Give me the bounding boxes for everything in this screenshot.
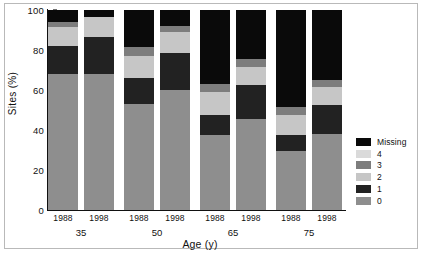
bar-segment[interactable] [160, 90, 190, 210]
bar-segment[interactable] [276, 151, 306, 210]
x-group-label-age: 75 [279, 227, 339, 238]
legend: Missing43210 [356, 136, 418, 207]
bar-segment[interactable] [48, 74, 78, 210]
x-group-label-age: 50 [127, 227, 187, 238]
legend-swatch [356, 150, 371, 158]
y-axis-title: Sites (%) [7, 49, 18, 139]
bar-segment[interactable] [160, 53, 190, 90]
legend-item[interactable]: 4 [356, 148, 418, 160]
y-tick-label: 80 [33, 45, 44, 56]
x-tick-label-year: 1988 [43, 213, 83, 223]
bar-segment[interactable] [160, 10, 190, 26]
legend-item[interactable]: 1 [356, 183, 418, 195]
chart-figure: 020406080100 Sites (%) 19881998351988199… [0, 0, 423, 254]
plot-area [48, 10, 346, 210]
y-tick-label: 40 [33, 125, 44, 136]
stacked-bar[interactable] [236, 10, 266, 210]
bar-segment[interactable] [84, 10, 114, 17]
legend-swatch [356, 197, 371, 205]
y-tick-label: 20 [33, 165, 44, 176]
bar-group [48, 10, 114, 210]
stacked-bar[interactable] [84, 10, 114, 210]
bar-segment[interactable] [312, 80, 342, 87]
stacked-bar[interactable] [312, 10, 342, 210]
bar-segment[interactable] [236, 67, 266, 85]
bar-segment[interactable] [200, 135, 230, 210]
bar-segment[interactable] [48, 46, 78, 74]
bar-segment[interactable] [236, 59, 266, 67]
bar-segment[interactable] [160, 32, 190, 53]
x-tick-label-year: 1998 [307, 213, 347, 223]
x-tick-label-year: 1998 [79, 213, 119, 223]
stacked-bar[interactable] [124, 10, 154, 210]
legend-item[interactable]: 2 [356, 171, 418, 183]
bar-segment[interactable] [124, 78, 154, 104]
bar-segment[interactable] [160, 26, 190, 32]
stacked-bar[interactable] [48, 10, 78, 210]
bar-segment[interactable] [200, 84, 230, 92]
legend-item[interactable]: 3 [356, 160, 418, 172]
bar-segment[interactable] [312, 105, 342, 134]
x-tick-label-year: 1998 [155, 213, 195, 223]
bar-segment[interactable] [84, 74, 114, 210]
bar-segment[interactable] [236, 119, 266, 210]
stacked-bar[interactable] [276, 10, 306, 210]
legend-label: 0 [377, 196, 382, 206]
bar-segment[interactable] [276, 10, 306, 107]
bar-group [124, 10, 190, 210]
legend-swatch [356, 161, 371, 169]
x-tick-label-year: 1988 [271, 213, 311, 223]
bar-segment[interactable] [236, 10, 266, 59]
stacked-bar[interactable] [160, 10, 190, 210]
x-group-label-age: 65 [203, 227, 263, 238]
legend-label: 2 [377, 172, 382, 182]
bar-segment[interactable] [124, 56, 154, 78]
bar-segment[interactable] [200, 10, 230, 84]
legend-swatch [356, 138, 371, 146]
bar-segment[interactable] [236, 85, 266, 119]
x-group-label-age: 35 [51, 227, 111, 238]
bar-segment[interactable] [84, 17, 114, 37]
bar-segment[interactable] [48, 27, 78, 46]
x-tick-label-year: 1988 [195, 213, 235, 223]
legend-swatch [356, 185, 371, 193]
bar-segment[interactable] [48, 10, 78, 22]
bar-segment[interactable] [124, 47, 154, 56]
legend-label: 4 [377, 149, 382, 159]
legend-label: Missing [377, 137, 407, 147]
y-tick-label: 100 [28, 5, 44, 16]
y-tick-label: 60 [33, 85, 44, 96]
legend-item[interactable]: Missing [356, 136, 418, 148]
bar-group [276, 10, 342, 210]
stacked-bar[interactable] [200, 10, 230, 210]
bar-group [200, 10, 266, 210]
x-axis-title: Age (y) [150, 238, 250, 250]
bar-segment[interactable] [200, 92, 230, 115]
bar-segment[interactable] [312, 87, 342, 105]
bar-segment[interactable] [312, 10, 342, 80]
x-tick-label-year: 1988 [119, 213, 159, 223]
legend-label: 1 [377, 184, 382, 194]
bar-segment[interactable] [124, 104, 154, 210]
legend-swatch [356, 173, 371, 181]
legend-item[interactable]: 0 [356, 195, 418, 207]
bar-segment[interactable] [276, 135, 306, 151]
bar-segment[interactable] [276, 115, 306, 135]
bar-segment[interactable] [48, 22, 78, 27]
bar-segment[interactable] [84, 37, 114, 74]
x-axis-line [47, 210, 346, 211]
legend-label: 3 [377, 160, 382, 170]
bar-segment[interactable] [124, 10, 154, 47]
bar-segment[interactable] [312, 134, 342, 210]
bar-segment[interactable] [200, 115, 230, 135]
x-tick-label-year: 1998 [231, 213, 271, 223]
bar-segment[interactable] [276, 107, 306, 115]
